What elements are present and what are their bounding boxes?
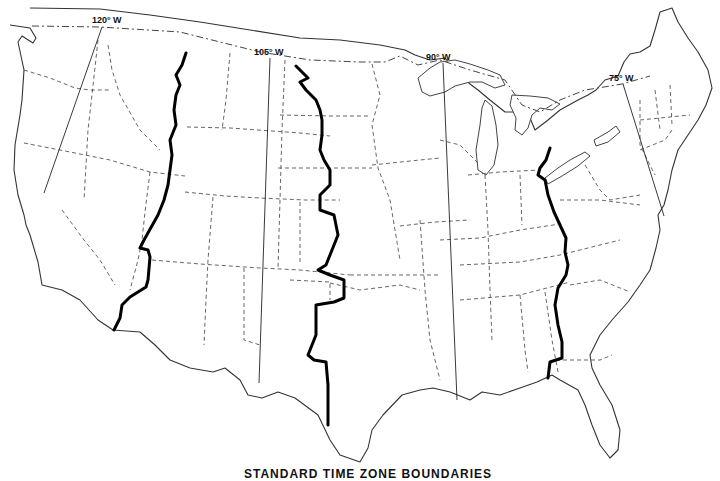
meridian-label-120w: 120° W bbox=[92, 15, 122, 25]
meridian-75w bbox=[623, 84, 664, 216]
state-boundaries bbox=[24, 40, 690, 380]
tz-boundary-pacific-mountain bbox=[114, 53, 186, 330]
meridian-90w bbox=[443, 63, 457, 400]
tz-boundary-mountain-central bbox=[296, 66, 344, 425]
meridian-120w bbox=[44, 27, 102, 193]
meridian-label-75w: 75° W bbox=[609, 73, 634, 83]
lake-ontario bbox=[594, 126, 620, 146]
meridian-label-105w: 105° W bbox=[254, 47, 284, 57]
lake-superior bbox=[418, 60, 505, 96]
lake-michigan bbox=[476, 100, 498, 175]
canada-border bbox=[32, 26, 650, 112]
meridian-label-90w: 90° W bbox=[426, 52, 451, 62]
lake-erie bbox=[545, 152, 590, 184]
map-title: STANDARD TIME ZONE BOUNDARIES bbox=[240, 467, 496, 481]
meridian-105w bbox=[259, 58, 270, 383]
us-coastline bbox=[10, 8, 712, 462]
